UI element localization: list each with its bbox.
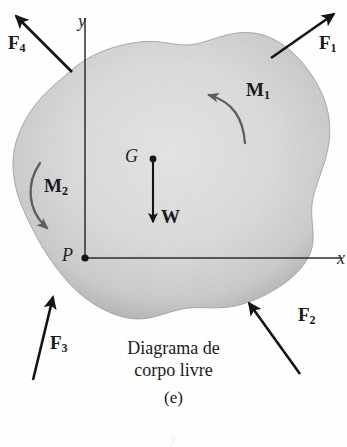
x-axis-label: x [337, 249, 345, 267]
origin-label: P [62, 246, 73, 264]
figure-caption-line1: Diagrama de [0, 338, 347, 359]
force-f1-label: F1 [319, 33, 337, 54]
page-bleed-glyph: y [0, 430, 347, 447]
figure-part-label: (e) [0, 388, 347, 408]
free-body-diagram-figure: F4 F1 F2 F3 M1 M2 W G P y x Diagrama de … [0, 0, 347, 447]
origin-point-marker [81, 254, 88, 261]
moment-m1-label: M1 [246, 80, 270, 101]
force-f4-label: F4 [8, 33, 26, 54]
figure-caption-line2: corpo livre [0, 360, 347, 381]
y-axis-label: y [78, 12, 86, 30]
force-f2-label: F2 [298, 305, 316, 326]
weight-label: W [161, 207, 180, 226]
centroid-point-marker [150, 156, 157, 163]
moment-m2-label: M2 [44, 176, 68, 197]
centroid-label: G [125, 147, 138, 165]
